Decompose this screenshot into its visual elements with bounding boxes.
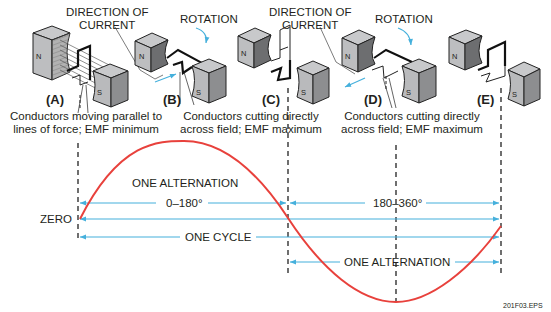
rotation-label-2: ROTATION <box>375 13 433 26</box>
direction-of-current-label-1: DIRECTION OF CURRENT <box>66 6 148 32</box>
ac-generation-diagram <box>0 0 551 312</box>
generator-c <box>238 25 329 104</box>
figure-id: 201F03.EPS <box>503 302 543 310</box>
one-cycle-label: ONE CYCLE <box>185 231 251 244</box>
label-d: (D) <box>364 93 382 106</box>
pole-s-a: S <box>97 86 102 99</box>
pole-s-d: S <box>406 86 411 99</box>
caption-a: Conductors moving parallel to lines of f… <box>10 110 162 136</box>
direction-of-current-label-2: DIRECTION OF CURRENT <box>269 6 351 32</box>
one-alternation-top-label: ONE ALTERNATION <box>132 177 238 190</box>
rotation-label-1: ROTATION <box>180 13 238 26</box>
zero-label: ZERO <box>40 213 72 226</box>
caption-d: Conductors cutting directly across field… <box>341 110 483 136</box>
label-a: (A) <box>46 93 64 106</box>
dimension-arrows <box>80 203 499 262</box>
range-180-360-label: 180–360° <box>373 197 422 210</box>
pole-s-c: S <box>301 86 306 99</box>
pole-n-e: N <box>452 50 457 63</box>
pole-n-d: N <box>345 50 350 63</box>
generator-d <box>342 28 436 108</box>
pole-s-e: S <box>512 88 517 101</box>
label-c: (C) <box>262 93 280 106</box>
pole-s-b: S <box>196 86 201 99</box>
caption-b: Conductors cutting directly across field… <box>180 110 322 136</box>
pole-n-c: N <box>241 47 246 60</box>
pole-n-a: N <box>36 50 41 63</box>
generator-e <box>449 30 540 106</box>
pole-n-b: N <box>139 50 144 63</box>
sine-wave <box>80 141 501 302</box>
label-e: (E) <box>477 93 494 106</box>
range-0-180-label: 0–180° <box>166 197 203 210</box>
one-alternation-bottom-label: ONE ALTERNATION <box>344 256 450 269</box>
label-b: (B) <box>163 93 181 106</box>
